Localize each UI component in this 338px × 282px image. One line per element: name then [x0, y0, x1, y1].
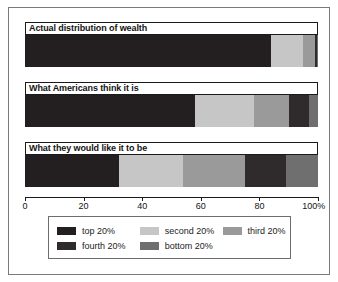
bar-segment-third-20 [303, 35, 315, 67]
bar-segment-top-20 [25, 95, 195, 127]
x-axis-tick-label: 0 [22, 201, 27, 211]
bar-segment-second-20 [271, 35, 303, 67]
x-axis-tick-label: 60 [196, 201, 206, 211]
x-axis-tick-label: 20 [79, 201, 89, 211]
bar-segment-third-20 [254, 95, 289, 127]
legend-row: fourth 20% bottom 20% [57, 238, 290, 253]
x-axis-tick-label: 80 [254, 201, 264, 211]
legend-item-empty [223, 238, 290, 253]
legend-item-second-20: second 20% [140, 223, 223, 238]
legend-label-bottom-20: bottom 20% [165, 241, 213, 251]
bar-segment-fourth-20 [245, 155, 286, 187]
bar-segment-bottom-20 [309, 95, 318, 127]
legend-item-bottom-20: bottom 20% [140, 238, 223, 253]
bar-segment-second-20 [195, 95, 254, 127]
legend-swatch-fourth-20 [57, 242, 76, 250]
bar-segment-fourth-20 [289, 95, 310, 127]
bar-label-actual: Actual distribution of wealth [25, 22, 318, 35]
bar-segment-second-20 [119, 155, 183, 187]
bar-label-would-like: What they would like it to be [25, 142, 318, 155]
x-axis-tick-label: 100% [302, 201, 325, 211]
wealth-distribution-chart: Actual distribution of wealth What Ameri… [0, 0, 338, 282]
bar-segment-bottom-20 [286, 155, 318, 187]
legend-item-fourth-20: fourth 20% [57, 238, 140, 253]
legend-row: top 20% second 20% third 20% [57, 223, 290, 238]
legend-label-fourth-20: fourth 20% [82, 241, 126, 251]
bar-segment-bottom-20 [317, 35, 318, 67]
bar-track-actual [25, 35, 318, 67]
legend-swatch-third-20 [223, 227, 242, 235]
bar-segment-third-20 [183, 155, 245, 187]
legend-item-third-20: third 20% [223, 223, 290, 238]
x-axis-tick-label: 40 [137, 201, 147, 211]
legend-label-third-20: third 20% [248, 226, 286, 236]
legend-label-top-20: top 20% [82, 226, 115, 236]
chart-legend: top 20% second 20% third 20% fourth 20% … [48, 216, 291, 259]
bar-track-americans-think [25, 95, 318, 127]
plot-area: Actual distribution of wealth What Ameri… [25, 22, 318, 197]
bar-label-americans-think: What Americans think it is [25, 82, 318, 95]
legend-swatch-bottom-20 [140, 242, 159, 250]
legend-item-top-20: top 20% [57, 223, 140, 238]
bar-track-would-like [25, 155, 318, 187]
bar-segment-top-20 [25, 35, 271, 67]
legend-swatch-top-20 [57, 227, 76, 235]
bar-segment-top-20 [25, 155, 119, 187]
legend-label-second-20: second 20% [165, 226, 215, 236]
legend-swatch-second-20 [140, 227, 159, 235]
x-axis-line [25, 197, 318, 198]
